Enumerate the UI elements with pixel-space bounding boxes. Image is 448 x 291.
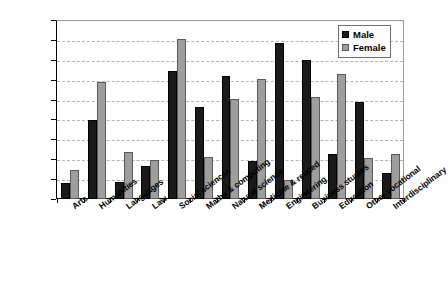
bar-female [70, 170, 79, 199]
y-tick-mark [51, 119, 56, 120]
legend-item-male: Male [342, 28, 386, 41]
y-tick-mark [51, 100, 56, 101]
y-tick-mark [51, 199, 56, 200]
bar-group [164, 20, 191, 199]
x-tick-mark [271, 199, 272, 203]
legend-item-female: Female [342, 41, 386, 54]
x-tick-mark [404, 199, 405, 203]
x-tick-mark [110, 199, 111, 203]
x-tick-mark [190, 199, 191, 203]
legend-label-female: Female [353, 42, 386, 53]
bar-group [57, 20, 84, 199]
y-tick-mark [51, 159, 56, 160]
y-tick-mark [51, 80, 56, 81]
y-tick-mark [51, 179, 56, 180]
x-tick-mark [137, 199, 138, 203]
x-tick-mark [84, 199, 85, 203]
x-tick-mark [244, 199, 245, 203]
bar-group [190, 20, 217, 199]
y-tick-mark [51, 40, 56, 41]
bar-male [168, 71, 177, 199]
bar-group [110, 20, 137, 199]
x-tick-mark [377, 199, 378, 203]
legend-label-male: Male [353, 29, 374, 40]
bar-female [177, 39, 186, 199]
bar-male [61, 183, 70, 199]
x-tick-mark [217, 199, 218, 203]
y-tick-mark [51, 60, 56, 61]
x-tick-mark [351, 199, 352, 203]
x-tick-mark [164, 199, 165, 203]
bar-male [88, 120, 97, 199]
legend-swatch-male-icon [342, 31, 349, 38]
bar-group [137, 20, 164, 199]
legend: Male Female [338, 25, 391, 58]
y-tick-mark [51, 20, 56, 21]
bar-group [84, 20, 111, 199]
legend-swatch-female-icon [342, 44, 349, 51]
x-tick-mark [324, 199, 325, 203]
y-tick-mark [51, 139, 56, 140]
x-tick-mark [297, 199, 298, 203]
bar-female [97, 82, 106, 199]
x-tick-mark [57, 199, 58, 203]
